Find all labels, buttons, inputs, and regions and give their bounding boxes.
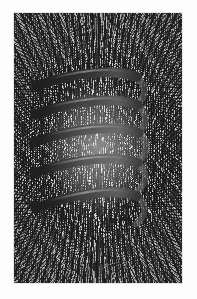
figure-container: Iron filings sprinkled on a card reveal … [0, 0, 197, 299]
solenoid-field-photograph: Iron filings sprinkled on a card reveal … [14, 13, 182, 283]
photo-vignette [14, 13, 182, 283]
